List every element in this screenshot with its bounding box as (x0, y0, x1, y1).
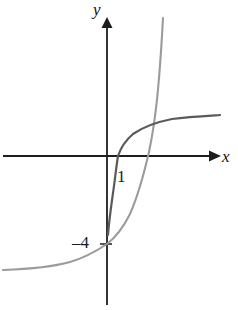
graph-plot (0, 0, 238, 310)
figure-canvas: y x 1 –4 (0, 0, 238, 310)
axes-group (3, 17, 221, 305)
y-axis-arrowhead (102, 17, 113, 28)
y-axis-label: y (93, 1, 101, 18)
x-axis-label: x (222, 148, 230, 165)
x-tick-label-one: 1 (117, 168, 126, 185)
x-axis-arrowhead (209, 151, 221, 162)
y-tick-label-negative-four: –4 (72, 234, 89, 251)
